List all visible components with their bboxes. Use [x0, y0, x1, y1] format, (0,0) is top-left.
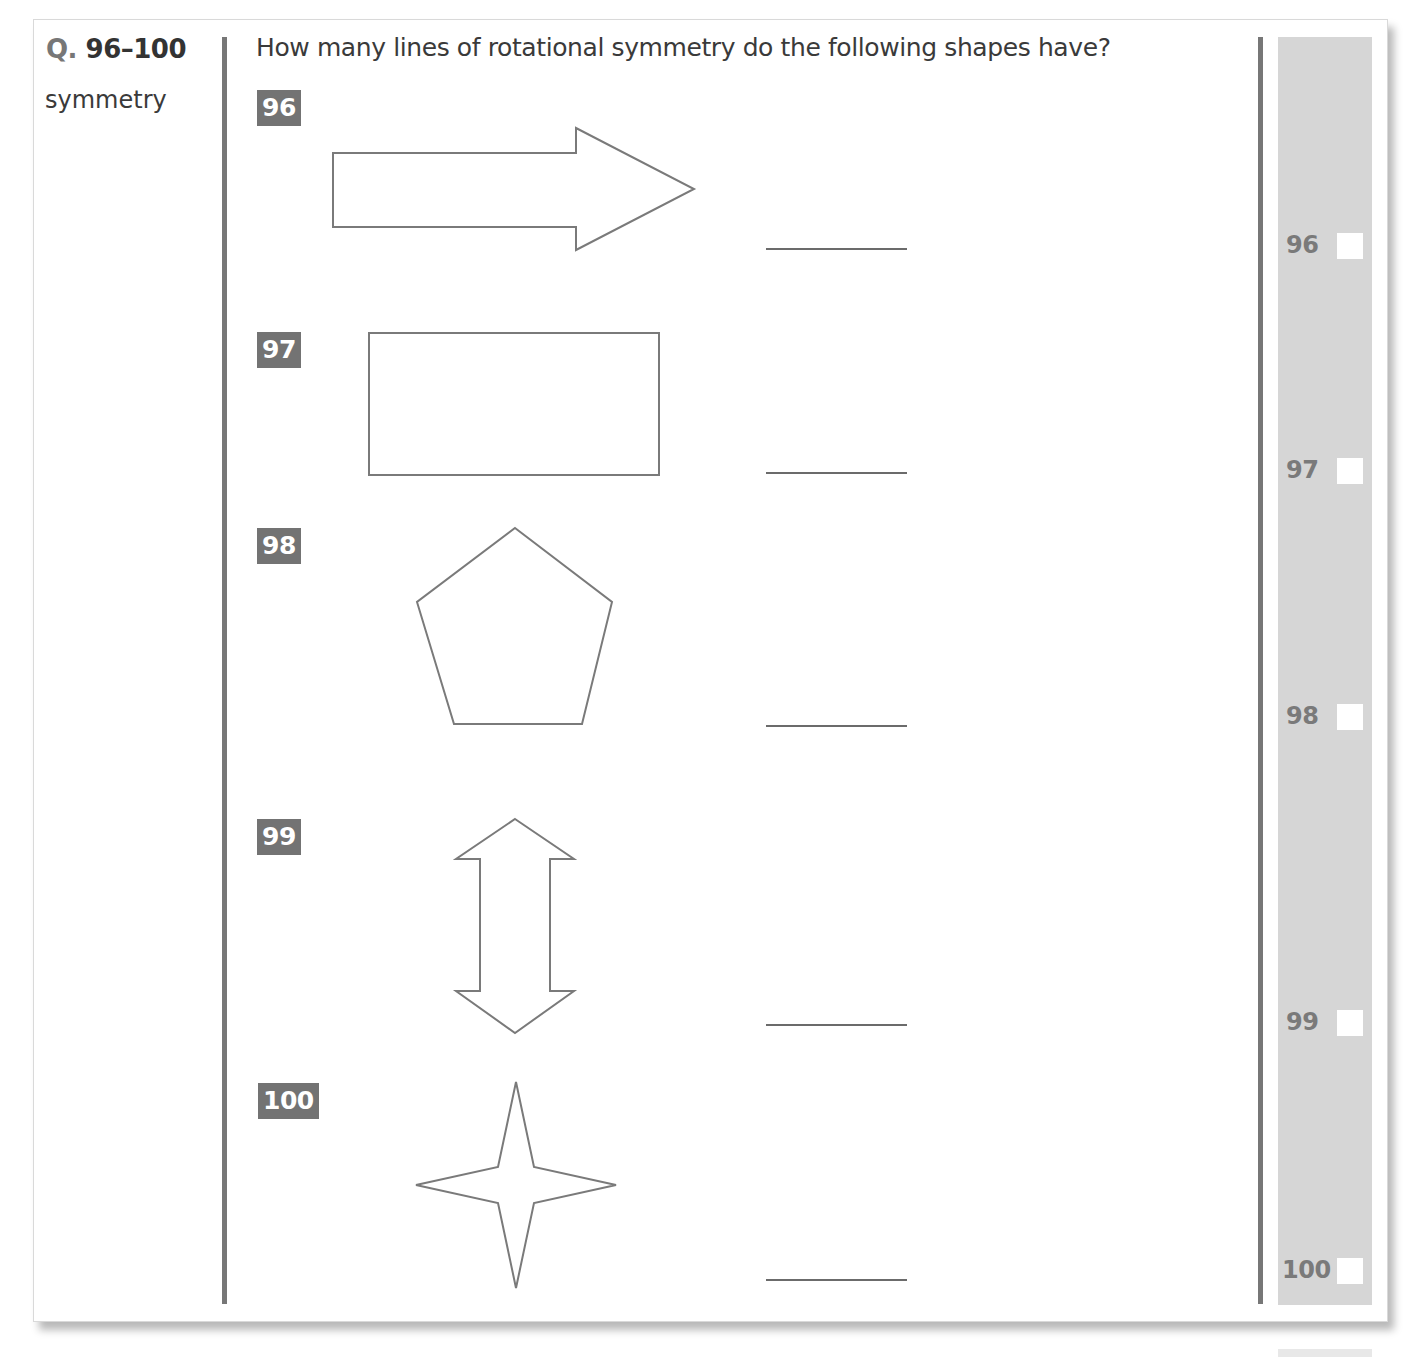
mark-number: 98 — [1286, 702, 1318, 730]
mark-number: 96 — [1286, 231, 1318, 259]
mark-checkbox-100[interactable] — [1337, 1258, 1363, 1284]
next-page-tab-edge — [1278, 1349, 1372, 1357]
arrow-right-shape — [324, 120, 704, 260]
answer-line-96[interactable] — [766, 248, 907, 250]
right-divider — [1258, 37, 1263, 1304]
item-number-badge: 98 — [257, 528, 301, 564]
mark-checkbox-98[interactable] — [1337, 704, 1363, 730]
left-divider — [222, 37, 227, 1304]
item-number-badge: 97 — [257, 332, 301, 368]
mark-checkbox-99[interactable] — [1337, 1010, 1363, 1036]
double-arrow-shape — [444, 815, 584, 1035]
worksheet-page: Q. 96–100 symmetry How many lines of rot… — [33, 19, 1388, 1322]
mark-number: 97 — [1286, 456, 1318, 484]
mark-checkbox-96[interactable] — [1337, 233, 1363, 259]
mark-checkbox-97[interactable] — [1337, 458, 1363, 484]
rectangle-shape — [364, 328, 664, 478]
question-range-label: Q. 96–100 — [46, 34, 186, 64]
mark-number: 100 — [1282, 1256, 1331, 1284]
answer-line-100[interactable] — [766, 1279, 907, 1281]
four-point-star-shape — [409, 1078, 624, 1293]
question-prompt: How many lines of rotational symmetry do… — [256, 33, 1111, 62]
topic-label: symmetry — [45, 86, 167, 114]
marks-margin-column: 96 97 98 99 100 — [1278, 37, 1372, 1305]
item-number-badge: 96 — [257, 90, 301, 126]
answer-line-97[interactable] — [766, 472, 907, 474]
question-prefix: Q. — [46, 34, 77, 64]
answer-line-98[interactable] — [766, 725, 907, 727]
pentagon-shape — [404, 520, 624, 735]
item-number-badge: 100 — [258, 1083, 319, 1119]
mark-number: 99 — [1286, 1008, 1318, 1036]
item-number-badge: 99 — [257, 819, 301, 855]
question-range: 96–100 — [77, 34, 186, 64]
answer-line-99[interactable] — [766, 1024, 907, 1026]
